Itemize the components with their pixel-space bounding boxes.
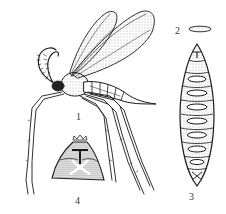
figure-label-2: 2 <box>175 26 180 36</box>
figure-label-3: 3 <box>189 192 194 202</box>
figure-label-1: 1 <box>76 112 81 122</box>
antennae <box>37 48 59 84</box>
figure-label-4: 4 <box>75 196 80 206</box>
abdomen <box>84 81 156 104</box>
larva <box>180 44 214 186</box>
egg <box>189 26 211 32</box>
terminal-segment <box>52 135 104 180</box>
wings <box>70 11 154 78</box>
insect-life-stage-illustration <box>0 0 226 214</box>
